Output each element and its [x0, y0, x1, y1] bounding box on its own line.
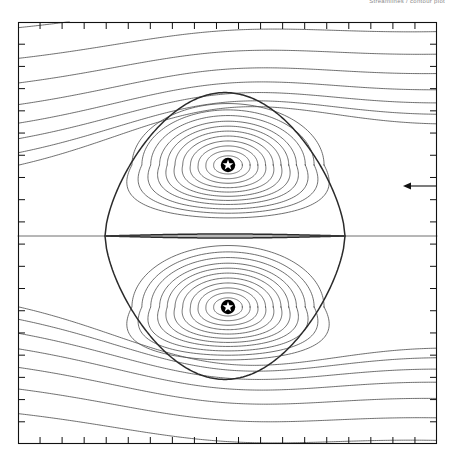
open-streamline — [19, 101, 436, 153]
figure-canvas: Streamlines / contour plot — [0, 0, 451, 464]
vortex-core-upper — [221, 158, 235, 172]
flow-direction-arrow — [403, 183, 437, 190]
open-streamline — [19, 82, 436, 123]
open-streamline — [19, 50, 436, 83]
streamline-plot — [0, 0, 451, 464]
axis-ticks — [18, 22, 437, 444]
open-streamline — [19, 333, 436, 379]
vortex-core-lower — [221, 300, 235, 314]
plot-frame — [19, 23, 437, 444]
streamline-group — [18, 22, 437, 443]
open-streamline — [19, 389, 436, 422]
open-streamline — [19, 319, 436, 371]
